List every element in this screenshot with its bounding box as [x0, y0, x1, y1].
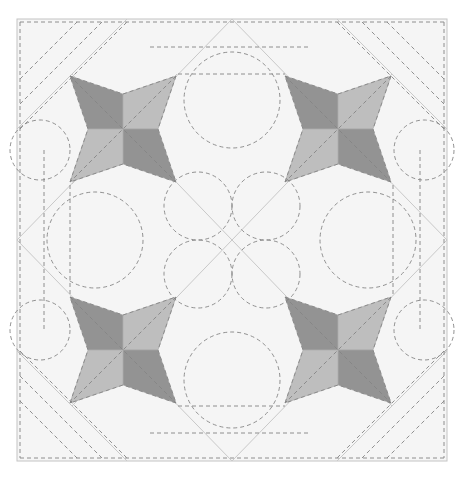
quilt-block-diagram [0, 0, 464, 478]
